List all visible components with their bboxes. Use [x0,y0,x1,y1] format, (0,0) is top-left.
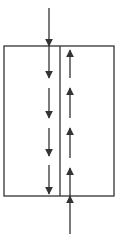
counter-current-diagram [0,0,123,241]
vessel-outline [4,46,114,196]
